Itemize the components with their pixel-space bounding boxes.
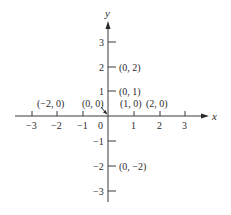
- point-label: (0, 2): [119, 62, 141, 74]
- x-tick-label: 1: [131, 120, 136, 131]
- y-tick-label: 3: [99, 37, 104, 48]
- x-tick-label: −2: [51, 120, 62, 131]
- y-tick-label: −2: [93, 161, 104, 172]
- x-tick-label: 0: [98, 120, 103, 131]
- x-tick-label: 3: [182, 120, 187, 131]
- point-label: (0, 1): [119, 86, 141, 98]
- y-tick-label: 1: [99, 86, 104, 97]
- coordinate-plane-svg: x y −3 −2 −1 0 1 2 3: [0, 0, 231, 215]
- y-axis-label: y: [104, 7, 110, 19]
- point-label: (0, −2): [119, 161, 146, 173]
- point-label: (1, 0): [120, 98, 142, 110]
- x-tick-label: −3: [26, 120, 37, 131]
- x-tick-label: 2: [157, 120, 162, 131]
- x-axis-label: x: [211, 110, 217, 122]
- x-axis-arrowhead-icon: [201, 114, 209, 119]
- point-label: (−2, 0): [37, 98, 64, 110]
- y-tick-label: −3: [93, 186, 104, 197]
- coordinate-plane-diagram: x y −3 −2 −1 0 1 2 3: [0, 0, 231, 215]
- point-label: (2, 0): [146, 98, 168, 110]
- y-axis-arrowhead-icon: [106, 21, 111, 29]
- y-tick-label: −1: [93, 136, 104, 147]
- x-tick-label: −1: [77, 120, 88, 131]
- point-label: (0, 0): [82, 98, 104, 110]
- y-tick-label: 2: [99, 62, 104, 73]
